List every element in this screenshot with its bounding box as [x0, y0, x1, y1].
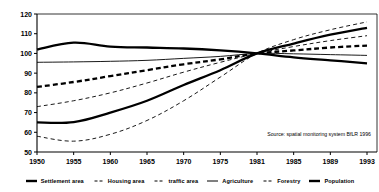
y-tick-label: 120	[20, 11, 32, 18]
y-tick-label: 110	[21, 30, 32, 37]
legend-label: Forestry	[277, 178, 300, 184]
series-line	[37, 36, 367, 107]
y-tick-label: 80	[24, 89, 32, 96]
series-line	[37, 28, 367, 123]
legend-swatch-thin-dashed-icon	[92, 178, 105, 184]
legend-swatch-thin-dashed-icon	[261, 178, 274, 184]
series-line	[37, 53, 367, 62]
y-axis-tick-labels: 5060708090100110120	[20, 11, 32, 156]
legend-label: Settlement area	[41, 178, 84, 184]
legend-label: Agriculture	[222, 178, 253, 184]
x-tick-label: 1989	[323, 158, 339, 165]
legend-item[interactable]: Forestry	[261, 178, 300, 184]
legend-item[interactable]: Settlement area	[25, 178, 84, 184]
x-tick-label: 1960	[103, 158, 119, 165]
legend-item[interactable]: Housing area	[92, 178, 145, 184]
legend-swatch-thick-solid-icon	[308, 178, 321, 184]
legend-swatch-thin-dashed-icon	[152, 178, 165, 184]
series-line	[37, 43, 367, 64]
x-tick-label: 1955	[66, 158, 82, 165]
y-tick-label: 90	[24, 70, 32, 77]
x-tick-label: 1965	[139, 158, 155, 165]
x-tick-label: 1993	[359, 158, 375, 165]
series-line	[37, 22, 367, 141]
y-tick-label: 60	[24, 129, 32, 136]
legend-item[interactable]: Population	[308, 178, 354, 184]
x-tick-label: 1975	[213, 158, 229, 165]
x-tick-label: 1981	[249, 158, 265, 165]
legend-swatch-thin-solid-icon	[206, 178, 219, 184]
legend-item[interactable]: Agriculture	[206, 178, 253, 184]
y-tick-label: 100	[20, 50, 32, 57]
y-tick-label: 50	[24, 149, 32, 156]
legend-label: Population	[324, 178, 354, 184]
y-tick-label: 70	[24, 109, 32, 116]
series-line	[37, 46, 367, 87]
x-tick-label: 1950	[29, 158, 45, 165]
source-attribution: Source: spatial monitoring system BfLR 1…	[267, 131, 371, 137]
x-tick-label: 1985	[286, 158, 302, 165]
data-series-lines	[37, 22, 367, 141]
chart-svg: 5060708090100110120 19501955196019651970…	[0, 0, 379, 170]
x-tick-label: 1970	[176, 158, 192, 165]
chart-container: 5060708090100110120 19501955196019651970…	[0, 0, 379, 192]
legend-label: Housing area	[108, 178, 145, 184]
legend-label: traffic area	[168, 178, 198, 184]
plot-area: 5060708090100110120 19501955196019651970…	[0, 0, 379, 170]
legend-item[interactable]: traffic area	[152, 178, 198, 184]
chart-legend: Settlement areaHousing areatraffic areaA…	[0, 170, 379, 192]
x-axis-tick-labels: 1950195519601965197019751981198519891993	[29, 158, 375, 165]
legend-swatch-thick-solid-icon	[25, 178, 38, 184]
